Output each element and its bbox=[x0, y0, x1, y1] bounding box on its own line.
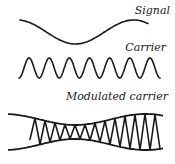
modulated-envelope-top bbox=[8, 114, 163, 125]
carrier-wave bbox=[19, 58, 160, 78]
carrier-label: Carrier bbox=[125, 41, 167, 54]
modulated-carrier-wave bbox=[30, 114, 160, 150]
modulated-carrier-label: Modulated carrier bbox=[65, 90, 169, 103]
signal-label: Signal bbox=[135, 4, 171, 17]
am-diagram: Signal Carrier Modulated carrier bbox=[0, 0, 175, 164]
